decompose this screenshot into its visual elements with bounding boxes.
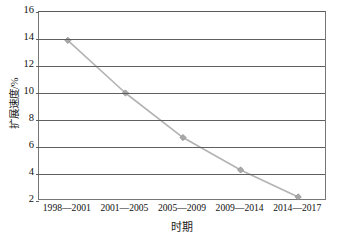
y-axis-tick-labels: 246810121416 [6, 0, 34, 244]
y-axis-tickmark [36, 12, 39, 13]
y-axis-tick-label: 12 [8, 59, 34, 70]
y-axis-tickmark [36, 120, 39, 121]
y-axis-tickmark [36, 66, 39, 67]
x-axis-title: 时期 [38, 222, 326, 233]
y-axis-tick-label: 8 [8, 113, 34, 124]
gridline [39, 147, 325, 148]
x-axis-tick-label: 2005—2009 [158, 202, 206, 214]
plot-area [38, 11, 326, 200]
y-axis-tick-label: 4 [8, 167, 34, 178]
gridline [39, 174, 325, 175]
y-axis-tick-label: 14 [8, 32, 34, 43]
chart-container: 扩展速度/% 246810121416 1998—20012001—200520… [0, 0, 337, 244]
y-axis-tickmark [36, 39, 39, 40]
gridline [39, 93, 325, 94]
y-axis-tickmark [36, 147, 39, 148]
x-axis-tick-label: 1998—2001 [43, 202, 91, 214]
data-point-marker [238, 167, 244, 173]
x-axis-tick-label: 2001—2005 [100, 202, 148, 214]
x-axis-tick-labels: 1998—20012001—20052005—20092009—20142014… [38, 202, 326, 218]
gridline [39, 66, 325, 67]
y-axis-tickmark [36, 174, 39, 175]
x-axis-tick-label: 2009—2014 [216, 202, 264, 214]
data-point-marker [295, 194, 301, 200]
y-axis-tick-label: 6 [8, 140, 34, 151]
y-axis-tick-label: 10 [8, 86, 34, 97]
gridline [39, 39, 325, 40]
y-axis-tick-label: 2 [8, 194, 34, 205]
y-axis-tickmark [36, 93, 39, 94]
x-axis-tick-label: 2014—2017 [273, 202, 321, 214]
y-axis-tick-label: 16 [8, 5, 34, 16]
gridline [39, 120, 325, 121]
